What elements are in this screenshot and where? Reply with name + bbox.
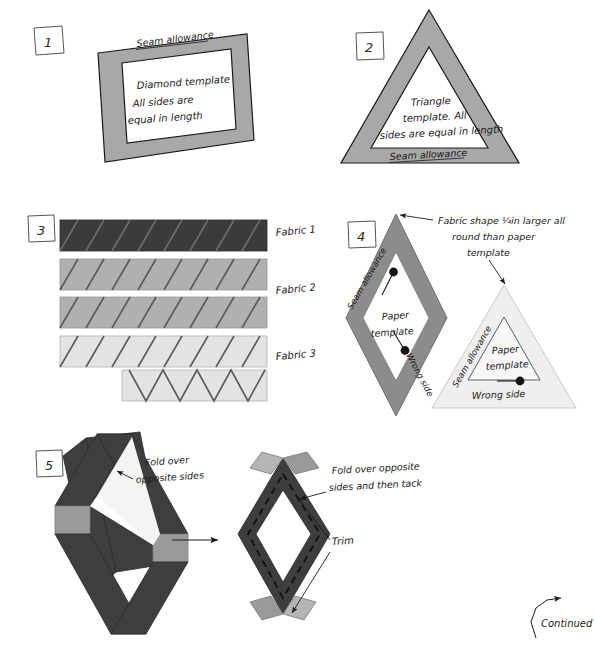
strip-fabric-3b (122, 370, 267, 401)
step-number-5: 5 (45, 458, 53, 473)
step4-triangle-wrong-side: Wrong side (472, 388, 526, 401)
step-number-box-5: 5 (36, 450, 63, 477)
step2-template-line-1: Triangle (411, 95, 451, 108)
step4-diamond-paper-1: Paper (381, 309, 410, 322)
step5-trim-label: Trim (332, 535, 355, 547)
step-number-2: 2 (365, 40, 373, 55)
step4-callout-line-1: Fabric shape ¼in larger all (438, 215, 565, 226)
step4-callout-line-2: round than paper (452, 231, 536, 242)
strip-fabric-2a (60, 259, 267, 290)
continued-label: Continued (541, 618, 593, 629)
strip-fabric-1 (60, 220, 267, 251)
step-number-box-3: 3 (28, 215, 55, 242)
step4-callout-line-3: template (467, 247, 510, 258)
step-number-1: 1 (44, 35, 52, 50)
strip-fabric-3a (60, 336, 267, 367)
strip-fabric-2b (60, 297, 267, 328)
step-number-box-4: 4 (348, 221, 376, 248)
instruction-sheet: 1 Seam allowance Diamond template All si… (0, 0, 595, 656)
step-number-box-2: 2 (356, 32, 384, 60)
step4-triangle-paper-1: Paper (491, 343, 520, 356)
step-number-box-1: 1 (34, 26, 64, 55)
step-number-3: 3 (37, 223, 45, 238)
step-number-4: 4 (357, 229, 365, 244)
